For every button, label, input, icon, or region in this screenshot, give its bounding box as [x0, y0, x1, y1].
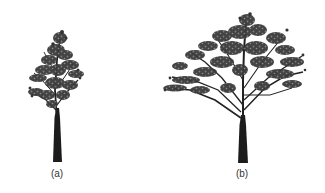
figure: (a) (b) — [0, 0, 325, 193]
tree-b — [163, 12, 306, 163]
panel-label-b: (b) — [236, 168, 248, 179]
panel-label-a: (a) — [51, 168, 63, 179]
tree-a — [28, 30, 84, 162]
tree-illustrations — [0, 0, 325, 193]
